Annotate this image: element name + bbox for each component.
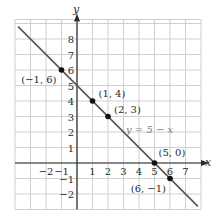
point-label: (5, 0) (159, 147, 186, 158)
y-tick-label: −1 (59, 174, 74, 185)
x-tick-label: 7 (182, 166, 188, 177)
x-tick-label: 3 (120, 166, 126, 177)
y-tick-label: 7 (68, 50, 74, 61)
x-tick-label: −2 (39, 166, 54, 177)
y-tick-label: 3 (68, 112, 74, 123)
y-tick-label: 6 (68, 65, 74, 76)
data-point (59, 67, 65, 73)
point-label: (6, −1) (131, 183, 166, 194)
y-tick-label: 4 (68, 96, 74, 107)
point-label: (1, 4) (99, 88, 126, 99)
x-axis-label: x (205, 156, 212, 169)
y-tick-label: 2 (68, 127, 74, 138)
y-tick-label: 8 (68, 34, 74, 45)
y-tick-label: 5 (68, 81, 74, 92)
axes (15, 14, 209, 210)
point-label: (2, 3) (114, 104, 141, 115)
data-point (90, 98, 96, 104)
equation-label: y = 5 − x (125, 124, 173, 135)
x-tick-label: 2 (105, 166, 111, 177)
y-tick-label: 1 (68, 143, 74, 154)
x-tick-label: 4 (136, 166, 142, 177)
data-point (105, 114, 111, 120)
x-tick-label: 1 (89, 166, 95, 177)
data-point (152, 160, 158, 166)
y-axis-label: y (72, 3, 80, 16)
x-tick-label: 6 (167, 166, 173, 177)
point-label: (−1, 6) (21, 74, 56, 85)
x-tick-label: 5 (151, 166, 157, 177)
y-tick-label: −2 (59, 189, 74, 200)
coordinate-plane-chart: (−1, 6)(1, 4)(2, 3)(5, 0)(6, −1) −2−1123… (0, 0, 217, 222)
